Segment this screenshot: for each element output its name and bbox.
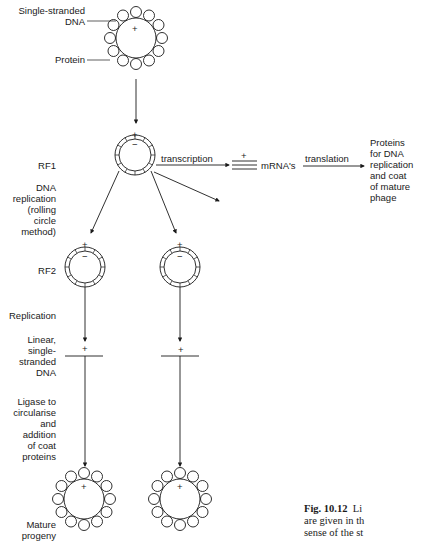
plus-sign-top: + bbox=[132, 23, 138, 34]
minus-sign-rf2-left: − bbox=[82, 251, 88, 262]
label-replication: Replication bbox=[9, 310, 56, 321]
plus-sign-mrna: + bbox=[241, 150, 247, 161]
figure-caption: Fig. 10.12 Li are given in th sense of t… bbox=[304, 503, 364, 539]
label-rf2: RF2 bbox=[38, 265, 56, 276]
plus-sign-mature-left: + bbox=[81, 481, 87, 492]
minus-sign-rf1: − bbox=[132, 139, 138, 150]
phage-life-cycle-diagram bbox=[0, 0, 421, 541]
label-mrnas: mRNA's bbox=[261, 160, 296, 171]
label-protein: Protein bbox=[55, 54, 85, 65]
label-ligase: Ligase tocircularise andaddition of coat… bbox=[13, 396, 56, 462]
label-rf1: RF1 bbox=[38, 160, 56, 171]
label-translation: translation bbox=[305, 153, 349, 164]
plus-sign-rf2-left: + bbox=[82, 239, 88, 250]
label-dna-replication: DNAreplication (rollingcircle method) bbox=[13, 182, 56, 237]
label-mature-progeny: Matureprogeny bbox=[22, 519, 56, 541]
label-transcription: transcription bbox=[161, 153, 213, 164]
plus-sign-mature-right: + bbox=[177, 481, 183, 492]
mature-phage-left bbox=[53, 468, 116, 531]
minus-sign-rf2-right: − bbox=[177, 251, 183, 262]
plus-sign-rf2-right: + bbox=[177, 239, 183, 250]
label-linear-ssdna: Linear,single- strandedDNA bbox=[19, 334, 56, 378]
plus-sign-linear-right: + bbox=[178, 344, 184, 355]
top-phage bbox=[87, 7, 168, 70]
mature-phage-right bbox=[149, 468, 212, 531]
figure-number: Fig. 10.12 bbox=[304, 503, 347, 514]
label-proteins-output: Proteinsfor DNA replicationand coat of m… bbox=[370, 137, 413, 203]
plus-sign-linear-left: + bbox=[82, 343, 88, 354]
label-single-stranded-dna: Single-strandedDNA bbox=[18, 5, 85, 27]
